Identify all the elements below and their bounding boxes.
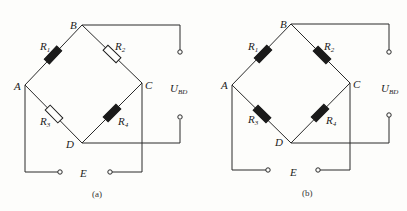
- output-voltage-label: UBD: [170, 82, 187, 96]
- supply-terminal-right: [316, 168, 320, 172]
- output-terminal-top: [387, 50, 391, 54]
- supply-terminal-right: [108, 170, 112, 174]
- resistor-label-r2: R2: [323, 40, 335, 54]
- node-label-c: C: [145, 79, 153, 91]
- resistor-label-r3: R3: [39, 115, 51, 129]
- caption-a: (a): [92, 189, 102, 199]
- bridge-circuit-a: B A C D E R1 R2 R3 R4 UBD (a): [13, 19, 187, 199]
- resistor-label-r1: R1: [247, 40, 258, 54]
- node-label-a: A: [13, 80, 21, 92]
- wire-b-output: [291, 24, 389, 50]
- resistor-label-r4: R4: [117, 115, 129, 129]
- bridge-circuits: B A C D E R1 R2 R3 R4 UBD (a) B A C D E …: [0, 0, 407, 211]
- bridge-circuit-b: B A C D E R1 R2 R3 R4 UBD (b): [220, 18, 398, 198]
- wire-d-output: [291, 117, 389, 143]
- output-voltage-label: UBD: [381, 82, 398, 96]
- node-label-b: B: [280, 18, 287, 30]
- resistor-label-r3: R3: [247, 113, 259, 127]
- node-label-e: E: [79, 167, 87, 179]
- wire-a-supply: [25, 85, 58, 172]
- supply-terminal-left: [58, 170, 62, 174]
- node-label-b: B: [70, 19, 77, 31]
- resistor-label-r1: R1: [39, 40, 50, 54]
- node-label-d: D: [274, 136, 283, 148]
- wire-d-output: [82, 120, 180, 143]
- wire-a-supply: [232, 85, 266, 170]
- wire-b-output: [82, 25, 180, 50]
- caption-b: (b): [302, 188, 313, 198]
- node-label-e: E: [289, 166, 297, 178]
- node-label-d: D: [65, 138, 74, 150]
- output-terminal-bottom: [387, 113, 391, 117]
- node-label-c: C: [353, 78, 361, 90]
- output-terminal-top: [178, 50, 182, 54]
- output-terminal-bottom: [178, 115, 182, 119]
- node-label-a: A: [220, 79, 228, 91]
- supply-terminal-left: [266, 168, 270, 172]
- resistor-label-r4: R4: [325, 114, 337, 128]
- resistor-label-r2: R2: [114, 40, 126, 54]
